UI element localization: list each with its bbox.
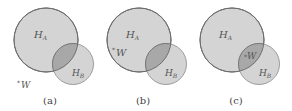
point-marker: * [17, 79, 20, 86]
caption-c: (c) [229, 95, 243, 106]
panel-a: HA HB * W (a) [14, 8, 94, 106]
point-marker: * [112, 46, 115, 53]
label-w: W [116, 47, 127, 58]
label-w: W [21, 80, 31, 90]
caption-b: (b) [136, 95, 150, 106]
label-w: W [247, 51, 257, 61]
panel-c: HA HB * W (c) [200, 8, 280, 106]
venn-figure: HA HB * W (a) HA HB * W (b) HA HB * [0, 0, 292, 111]
caption-a: (a) [43, 95, 57, 106]
panel-b: HA HB * W (b) [107, 8, 187, 106]
